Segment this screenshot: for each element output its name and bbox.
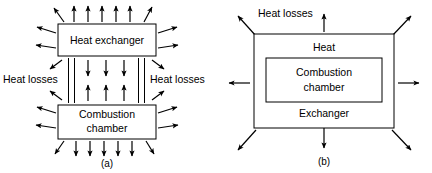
diagram-panel-a: Heat exchanger Combustion chamber bbox=[0, 0, 216, 173]
diagram-panel-b: Heat Exchanger Combustion chamber Heat l… bbox=[216, 0, 432, 173]
heat-losses-label-b: Heat losses bbox=[258, 7, 313, 19]
combustion-chamber-label-line1-b: Combustion bbox=[296, 66, 352, 78]
combustion-chamber-label-line1: Combustion bbox=[79, 108, 135, 120]
panel-b-canvas: Heat Exchanger Combustion chamber Heat l… bbox=[216, 0, 432, 173]
top-loss-arrows bbox=[54, 6, 152, 22]
combustion-chamber-label-line2: chamber bbox=[87, 122, 128, 134]
heat-exchanger-label: Heat exchanger bbox=[70, 34, 145, 46]
exchanger-label: Exchanger bbox=[299, 107, 350, 119]
panel-b-caption: (b) bbox=[318, 156, 330, 167]
interior-flow-arrows bbox=[88, 60, 124, 101]
heat-losses-right-label: Heat losses bbox=[150, 73, 205, 85]
panel-a-canvas: Heat exchanger Combustion chamber bbox=[0, 0, 216, 173]
figure-root: Heat exchanger Combustion chamber bbox=[0, 0, 432, 173]
combustion-chamber-label-line2-b: chamber bbox=[304, 81, 345, 93]
panel-a-caption: (a) bbox=[101, 158, 113, 169]
bottom-loss-arrows bbox=[55, 141, 154, 156]
heat-losses-left-label: Heat losses bbox=[3, 73, 58, 85]
heat-label: Heat bbox=[313, 41, 335, 53]
